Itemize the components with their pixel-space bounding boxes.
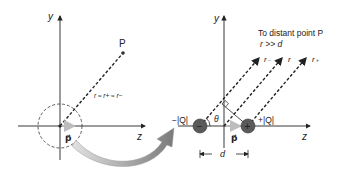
origin-dot xyxy=(58,124,61,127)
transition-arrow-icon xyxy=(72,128,174,167)
distance-relation: r ≈ r+ ≈ r− xyxy=(94,92,123,99)
z-axis-label: z xyxy=(136,131,142,142)
dipole-label: p⃗ xyxy=(231,133,238,143)
dipole-label: p⃗ xyxy=(65,133,72,143)
y-axis-label: y xyxy=(47,11,54,22)
dipole-diagram: y z P r ≈ r+ ≈ r− p⃗ y z To distant poin… xyxy=(0,0,355,172)
positive-charge-label: +|Q| xyxy=(258,115,274,125)
separation-label: d xyxy=(220,149,226,159)
point-p-label: P xyxy=(119,38,126,49)
theta-label: θ xyxy=(214,114,219,124)
left-panel: y z P r ≈ r+ ≈ r− p⃗ xyxy=(18,11,145,160)
caption-distant-point: To distant point P xyxy=(258,28,324,38)
ray-label-r: r xyxy=(288,55,291,64)
point-p xyxy=(121,51,125,55)
y-axis-label: y xyxy=(213,13,220,24)
distance-line xyxy=(60,53,123,126)
negative-charge-symbol: − xyxy=(197,121,203,132)
right-angle-mark xyxy=(222,101,229,108)
ray-r-plus xyxy=(248,58,306,126)
ray-r-minus xyxy=(200,58,259,126)
right-panel: y z To distant point P r >> d r₋ r r₊ θ … xyxy=(172,13,324,159)
ray-label-r-plus: r₊ xyxy=(312,55,320,64)
ray-label-r-minus: r₋ xyxy=(264,55,272,64)
positive-charge-symbol: + xyxy=(245,121,251,132)
negative-charge-label: −|Q| xyxy=(172,115,188,125)
z-axis-label: z xyxy=(301,131,307,142)
caption-r-much-greater-d: r >> d xyxy=(260,39,282,49)
